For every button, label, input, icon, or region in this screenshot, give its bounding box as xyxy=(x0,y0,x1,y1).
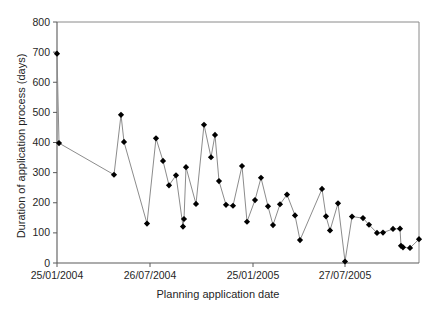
x-tick-label: 26/07/2004 xyxy=(105,270,195,281)
data-point-marker xyxy=(335,200,341,206)
data-point-marker xyxy=(258,175,264,181)
data-point-marker xyxy=(397,226,403,232)
chart-figure: 0100200300400500600700800 25/01/200426/0… xyxy=(0,0,436,315)
y-axis-label: Duration of application process (days) xyxy=(15,31,27,261)
data-point-marker xyxy=(173,172,179,178)
data-point-marker xyxy=(319,186,325,192)
data-point-marker xyxy=(239,163,245,169)
y-axis-ticks xyxy=(53,22,57,263)
series-line xyxy=(57,54,419,262)
data-point-marker xyxy=(212,132,218,138)
data-point-marker xyxy=(144,220,150,226)
data-point-marker xyxy=(201,122,207,128)
data-point-marker xyxy=(380,229,386,235)
data-point-marker xyxy=(193,201,199,207)
data-point-marker xyxy=(166,182,172,188)
data-point-marker xyxy=(327,227,333,233)
data-point-marker xyxy=(297,237,303,243)
data-point-marker xyxy=(390,226,396,232)
data-point-marker xyxy=(216,178,222,184)
x-tick-label: 25/01/2005 xyxy=(208,270,298,281)
series-markers xyxy=(54,51,422,265)
data-point-marker xyxy=(180,223,186,229)
data-point-marker xyxy=(183,164,189,170)
data-point-marker xyxy=(342,258,348,264)
line-chart-plot xyxy=(0,0,436,315)
data-point-marker xyxy=(244,219,250,225)
data-point-marker xyxy=(230,203,236,209)
data-point-marker xyxy=(54,51,60,57)
data-point-marker xyxy=(292,212,298,218)
data-point-marker xyxy=(121,139,127,145)
data-point-marker xyxy=(153,135,159,141)
data-point-marker xyxy=(223,202,229,208)
x-tick-label: 25/01/2004 xyxy=(12,270,102,281)
data-point-marker xyxy=(118,112,124,118)
x-axis-label: Planning application date xyxy=(0,288,436,300)
data-point-marker xyxy=(323,213,329,219)
y-tick-label: 800 xyxy=(8,17,50,28)
data-point-marker xyxy=(160,158,166,164)
x-axis-ticks xyxy=(57,263,345,267)
plot-frame xyxy=(57,22,419,263)
data-point-marker xyxy=(265,203,271,209)
x-tick-label: 27/07/2005 xyxy=(300,270,390,281)
data-point-marker xyxy=(252,197,258,203)
data-point-marker xyxy=(111,172,117,178)
data-point-marker xyxy=(208,154,214,160)
data-point-marker xyxy=(349,214,355,220)
data-point-marker xyxy=(270,222,276,228)
